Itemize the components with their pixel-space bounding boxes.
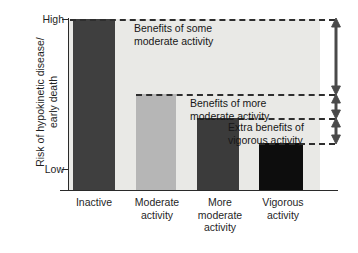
x-label-moderate-activity: Moderate activity (122, 196, 192, 221)
x-label-more-moderate-activity-line-3: activity (186, 221, 254, 234)
annotation-benefits-some-moderate: Benefits of some moderate activity (134, 22, 213, 47)
level-line-high (70, 19, 335, 21)
x-label-moderate-activity-line-1: Moderate (122, 196, 192, 209)
annotation-benefits-more-moderate-line-1: Benefits of more (190, 97, 266, 109)
physical-activity-risk-bar-chart: Risk of hypokinetic disease/ early death… (0, 0, 358, 253)
level-line-moderate-activity (136, 94, 335, 96)
benefit-span-arrows-svg (326, 0, 348, 200)
x-axis-line (60, 190, 338, 191)
arrow-benefits-some-moderate (332, 18, 341, 95)
x-label-more-moderate-activity-line-2: moderate (186, 209, 254, 222)
annotation-benefits-some-moderate-line-2: moderate activity (134, 35, 213, 47)
annotation-benefits-more-moderate-line-2: moderate activity (190, 110, 269, 122)
y-axis-label-line-1: Risk of hypokinetic disease/ (34, 37, 46, 167)
annotation-extra-benefits-vigorous-line-2: vigorous activity (228, 134, 303, 146)
x-label-vigorous-activity: Vigorous activity (252, 196, 314, 221)
bar-vigorous-activity (259, 143, 303, 190)
arrow-benefits-more-moderate (332, 94, 341, 119)
arrow-extra-benefits-vigorous (332, 118, 341, 144)
x-label-vigorous-activity-line-2: activity (252, 209, 314, 222)
benefit-span-arrows (326, 0, 348, 200)
x-label-inactive: Inactive (61, 196, 127, 209)
x-label-more-moderate-activity: More moderate activity (186, 196, 254, 234)
annotation-benefits-some-moderate-line-1: Benefits of some (134, 22, 212, 34)
bar-moderate-activity (136, 94, 176, 190)
bar-inactive (73, 19, 115, 190)
y-tick-label-low: Low (24, 163, 64, 175)
y-tick-label-high: High (24, 13, 64, 25)
annotation-extra-benefits-vigorous: Extra benefits of vigorous activity (228, 121, 304, 146)
x-label-vigorous-activity-line-1: Vigorous (252, 196, 314, 209)
x-label-inactive-line-1: Inactive (61, 196, 127, 209)
annotation-extra-benefits-vigorous-line-1: Extra benefits of (228, 121, 304, 133)
annotation-benefits-more-moderate: Benefits of more moderate activity (190, 97, 269, 122)
x-axis-category-labels: Inactive Moderate activity More moderate… (69, 196, 320, 246)
x-label-moderate-activity-line-2: activity (122, 209, 192, 222)
x-label-more-moderate-activity-line-1: More (186, 196, 254, 209)
